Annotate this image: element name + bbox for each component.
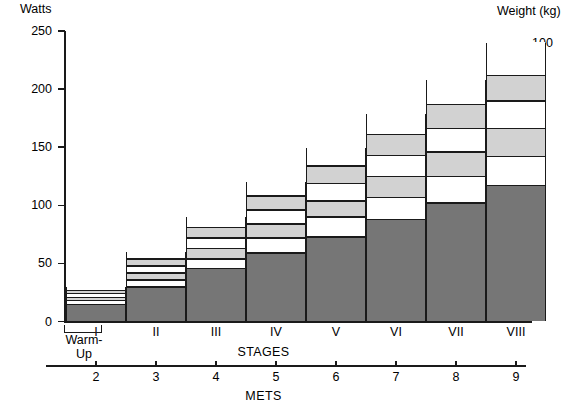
bar-band-divider-V-4 [307,216,365,217]
bar-band-III-2 [187,227,245,237]
bar-band-VII-3 [427,128,485,151]
mets-tick-8 [455,361,457,366]
mets-label-5: 5 [256,370,296,384]
stage-label-VII: VII [426,325,486,339]
mets-tick-6 [335,361,337,366]
bar-band-divider-V-1 [307,165,365,166]
bar-stage-II [126,252,186,322]
bar-band-VII-2 [427,104,485,128]
bar-band-VI-5 [367,197,425,219]
bar-band-VI-1 [367,113,425,134]
bar-band-divider-IV-3 [247,223,305,224]
bar-band-VII-1 [427,79,485,103]
bar-band-VI-2 [367,134,425,155]
bar-band-divider-VI-2 [367,155,425,156]
bar-band-divider-II-1 [127,258,185,259]
bar-band-IV-1 [247,182,305,196]
bar-band-II-6 [127,286,185,321]
bar-band-divider-V-2 [307,183,365,184]
bar-band-V-2 [307,165,365,182]
mets-label-3: 3 [136,370,176,384]
bar-band-III-1 [187,216,245,226]
bar-band-divider-IV-5 [247,252,305,253]
bar-band-divider-VI-3 [367,176,425,177]
bar-band-divider-I-5 [67,304,125,305]
bar-stage-VIII [486,43,546,322]
bar-band-V-6 [307,236,365,321]
bar-stage-IV [246,182,306,321]
bar-band-divider-III-5 [187,268,245,269]
bar-band-divider-I-2 [67,293,125,294]
bar-stage-VI [366,114,426,322]
bar-band-divider-II-4 [127,279,185,280]
bar-band-V-5 [307,216,365,236]
bar-band-II-1 [127,251,185,258]
bar-band-divider-IV-4 [247,237,305,238]
bar-band-VIII-3 [487,100,545,128]
bar-band-VIII-1 [487,42,545,75]
bar-band-divider-V-3 [307,200,365,201]
stage-label-VIII: VIII [486,325,546,339]
bar-band-divider-IV-2 [247,209,305,210]
bar-band-divider-III-2 [187,237,245,238]
bar-band-V-4 [307,200,365,216]
bar-band-IV-6 [247,252,305,321]
bar-band-divider-VII-4 [427,176,485,177]
bar-stage-V [306,148,366,321]
mets-label-2: 2 [76,370,116,384]
bar-band-III-6 [187,268,245,321]
bar-band-divider-VII-1 [427,104,485,105]
bar-band-I-6 [67,304,125,321]
mets-label-8: 8 [436,370,476,384]
bar-band-divider-VIII-4 [487,156,545,157]
stage-label-III: III [186,325,246,339]
mets-axis-line [46,365,526,367]
mets-tick-3 [155,361,157,366]
stage-label-II: II [126,325,186,339]
bar-band-divider-I-1 [67,290,125,291]
stage-label-V: V [306,325,366,339]
bar-band-divider-VIII-1 [487,75,545,76]
stage-label-VI: VI [366,325,426,339]
bar-band-divider-II-5 [127,286,185,287]
bar-band-divider-VIII-3 [487,128,545,129]
bar-band-divider-VIII-2 [487,100,545,101]
bar-band-divider-VI-1 [367,134,425,135]
mets-label-4: 4 [196,370,236,384]
bar-band-divider-III-4 [187,258,245,259]
bar-band-divider-VII-3 [427,151,485,152]
bar-stage-VII [426,80,486,322]
bar-band-divider-VIII-5 [487,185,545,186]
bar-band-IV-3 [247,209,305,223]
bar-band-IV-2 [247,195,305,209]
mets-caption: METS [0,389,571,403]
bar-band-III-5 [187,258,245,267]
stages-caption-text: STAGES [237,345,289,359]
bar-band-divider-VII-2 [427,128,485,129]
bar-band-VII-5 [427,176,485,203]
bar-band-divider-II-2 [127,265,185,266]
mets-label-6: 6 [316,370,356,384]
bar-band-divider-IV-1 [247,195,305,196]
mets-label-9: 9 [496,370,536,384]
bar-band-VIII-2 [487,75,545,101]
mets-tick-9 [515,361,517,366]
warmup-label-line2: Up [61,347,107,361]
bar-band-divider-VI-4 [367,197,425,198]
mets-caption-text: METS [245,389,281,403]
mets-tick-7 [395,361,397,366]
warmup-bracket [64,325,102,333]
mets-tick-4 [215,361,217,366]
bar-band-divider-III-1 [187,227,245,228]
bar-band-V-3 [307,183,365,200]
bar-band-VI-3 [367,155,425,176]
bar-band-IV-5 [247,237,305,252]
warmup-label-line1: Warm- [61,333,107,347]
bar-band-VI-4 [367,176,425,197]
bar-band-IV-4 [247,223,305,237]
bar-band-VII-6 [427,202,485,321]
bar-stage-III [186,217,246,322]
stage-label-IV: IV [246,325,306,339]
bar-band-VIII-5 [487,156,545,185]
bar-band-divider-VI-5 [367,219,425,220]
